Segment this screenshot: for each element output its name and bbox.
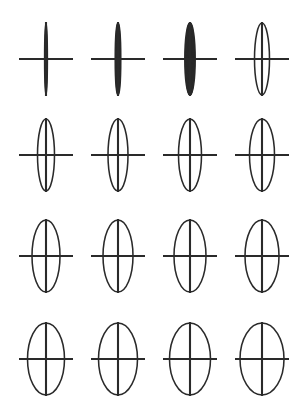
ellipse-grid-figure: Grid of ellipses with crosshair axes <box>0 0 301 411</box>
ellipse-grid-canvas: Grid of ellipses with crosshair axes <box>0 0 301 411</box>
